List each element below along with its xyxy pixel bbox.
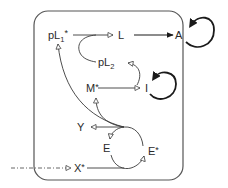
node-estar: E* [148, 145, 159, 157]
node-e: E [103, 142, 110, 154]
node-m: M* [86, 82, 99, 94]
edge-e-to-estar [111, 155, 144, 169]
node-i: I [145, 82, 148, 94]
edge-curve-to-pl2 [79, 35, 96, 62]
edge-i-to-pl2 [128, 63, 140, 85]
a-self-loop [186, 18, 214, 47]
node-a: A [175, 29, 183, 41]
node-y: Y [77, 121, 85, 133]
edge-estar-to-e [110, 127, 143, 146]
node-xstar: X* [74, 162, 85, 174]
node-pl2: pL2 [98, 56, 114, 71]
i-self-loop [150, 72, 176, 98]
node-pl1: pL1* [48, 28, 68, 44]
node-l: L [118, 29, 124, 41]
network-diagram: pL1* L A pL2 M* I Y E E* X* [0, 0, 228, 188]
